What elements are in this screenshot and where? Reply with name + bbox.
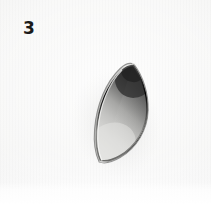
step-number-label: 3 bbox=[20, 18, 38, 39]
step-photo-figure: 3 Step 3: a pointed oval leaf shaped met… bbox=[0, 0, 211, 204]
